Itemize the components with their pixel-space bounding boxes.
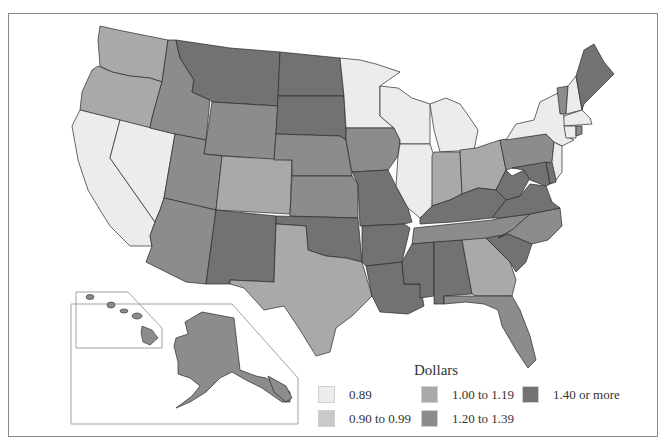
legend-item-1.40-or-more: 1.40 or more <box>522 386 620 403</box>
state-CT <box>564 126 576 138</box>
state-FL <box>444 296 536 368</box>
state-ME <box>576 44 614 110</box>
legend-label: 1.00 to 1.19 <box>452 387 514 403</box>
state-SD <box>276 96 346 140</box>
legend-swatch <box>318 410 335 427</box>
state-WY <box>204 102 278 160</box>
state-MI <box>430 98 478 152</box>
state-NM <box>206 210 276 284</box>
legend-item-1.00-1.19: 1.00 to 1.19 <box>421 386 514 403</box>
legend-swatch <box>421 410 438 427</box>
legend-swatch <box>318 386 335 403</box>
legend-label: 0.89 <box>349 387 372 403</box>
legend-item-1.20-1.39: 1.20 to 1.39 <box>421 410 514 427</box>
legend-label: 0.90 to 0.99 <box>349 411 411 427</box>
legend: Dollars 0.89 0.90 to 0.99 1.00 to 1.19 1… <box>318 362 648 432</box>
state-RI <box>576 126 582 136</box>
state-ND <box>278 52 344 96</box>
legend-title: Dollars <box>414 362 458 379</box>
state-KS <box>290 176 358 218</box>
state-AK <box>174 312 290 408</box>
state-CO <box>216 156 292 214</box>
legend-item-0.89: 0.89 <box>318 386 372 403</box>
state-AR <box>362 224 410 266</box>
legend-swatch <box>522 386 539 403</box>
legend-item-0.90-0.99: 0.90 to 0.99 <box>318 410 411 427</box>
state-IA <box>346 128 400 172</box>
legend-label: 1.40 or more <box>553 387 620 403</box>
state-HI <box>86 295 158 346</box>
legend-swatch <box>421 386 438 403</box>
legend-label: 1.20 to 1.39 <box>452 411 514 427</box>
